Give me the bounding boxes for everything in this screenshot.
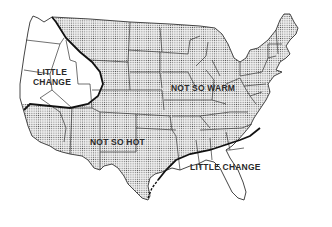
label-not-so-warm: NOT SO WARM bbox=[171, 83, 235, 93]
label-west-little-change: LITTLE CHANGE bbox=[33, 67, 71, 87]
label-not-so-hot: NOT SO HOT bbox=[90, 137, 145, 147]
label-gulf-little-change: LITTLE CHANGE bbox=[190, 162, 261, 172]
us-climate-map: LITTLE CHANGE NOT SO WARM NOT SO HOT LIT… bbox=[0, 0, 332, 227]
us-map-graphic bbox=[0, 0, 332, 227]
label-line-2: CHANGE bbox=[33, 77, 71, 87]
label-line-1: LITTLE bbox=[33, 67, 71, 77]
